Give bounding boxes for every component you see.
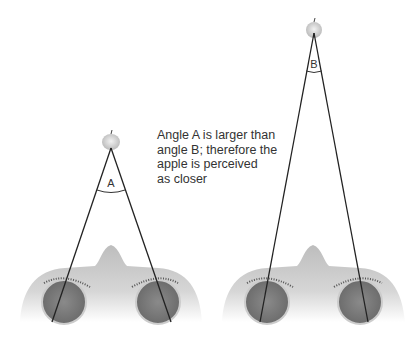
left-head bbox=[20, 245, 202, 324]
caption-line: angle B; therefore the bbox=[157, 143, 297, 158]
near-apple-icon bbox=[102, 130, 120, 150]
caption-line: as closer bbox=[157, 172, 297, 187]
right-eye-icon bbox=[338, 280, 382, 324]
right-head bbox=[222, 245, 405, 324]
angle-b-arc bbox=[306, 71, 322, 73]
angle-b-label: B bbox=[310, 58, 317, 70]
angle-a-label: A bbox=[107, 177, 115, 189]
caption-line: apple is perceived bbox=[157, 157, 297, 172]
right-eye-icon bbox=[136, 280, 180, 324]
caption-line: Angle A is larger than bbox=[157, 128, 297, 143]
angle-a-arc bbox=[97, 190, 125, 193]
caption-text: Angle A is larger than angle B; therefor… bbox=[157, 128, 297, 186]
